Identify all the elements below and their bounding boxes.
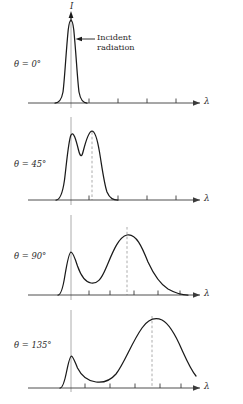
angle-label-panel-4: θ = 135° (14, 341, 52, 351)
intensity-axis-label: I (70, 1, 73, 11)
angle-label-panel-1: θ = 0° (14, 60, 41, 70)
x-axis-label-panel-1: λ (204, 96, 210, 107)
curve-panel-2 (56, 131, 118, 200)
angle-label-panel-3: θ = 90° (14, 252, 46, 262)
panel-theta-0 (28, 11, 200, 108)
x-axis-label-panel-3: λ (204, 288, 210, 299)
x-ticks-panel-4 (85, 384, 181, 389)
panel-theta-135 (28, 310, 200, 392)
x-ticks-panel-3 (89, 291, 180, 296)
curve-panel-3 (58, 235, 188, 295)
intensity-arrow-head-panel-1 (69, 11, 74, 18)
panel-theta-45 (28, 117, 200, 205)
curve-panel-4 (60, 319, 196, 388)
x-axis-arrow-panel-2 (193, 197, 200, 203)
angle-label-panel-2: θ = 45° (14, 160, 46, 170)
x-ticks-panel-2 (89, 196, 176, 201)
x-axis-arrow-panel-3 (193, 292, 200, 298)
incident-radiation-label-line2: radiation (97, 43, 135, 53)
x-axis-label-panel-4: λ (204, 381, 210, 392)
x-axis-arrow-panel-4 (193, 385, 200, 391)
panel-theta-90 (28, 215, 200, 300)
x-ticks-panel-1 (89, 99, 176, 104)
x-axis-label-panel-2: λ (204, 193, 210, 204)
x-axis-arrow-panel-1 (193, 100, 200, 106)
incident-annotation-arrowhead-panel-1 (76, 37, 83, 42)
